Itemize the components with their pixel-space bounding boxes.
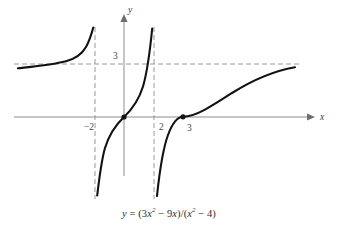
figure-container: −2 2 3 3 x y y = (3x2 − 9x)/(x2 − 4): [0, 0, 338, 237]
function-graph: −2 2 3 3 x y: [0, 0, 338, 237]
x-tick-label-3: 3: [187, 123, 192, 133]
origin-point-dot: [121, 114, 126, 119]
figure-caption: y = (3x2 − 9x)/(x2 − 4): [0, 206, 338, 219]
curve-middle-branch: [97, 29, 152, 196]
curve-left-branch: [18, 28, 93, 69]
x-tick-label-2: 2: [159, 122, 164, 132]
caption-equals: = (3: [127, 208, 147, 219]
x-axis-label: x: [319, 112, 325, 122]
curve-right-branch: [157, 67, 295, 196]
x-axis-arrow-icon: [307, 113, 315, 120]
caption-minus-1: − 9: [155, 208, 172, 219]
x-intercept-point-dot: [180, 114, 185, 119]
x-tick-label-neg2: −2: [84, 122, 94, 132]
caption-minus-2: − 4): [196, 208, 216, 219]
y-axis-arrow-icon: [120, 14, 127, 22]
caption-divider: )/(: [177, 208, 187, 219]
y-tick-label-3: 3: [113, 51, 118, 61]
y-axis-label: y: [127, 5, 133, 15]
